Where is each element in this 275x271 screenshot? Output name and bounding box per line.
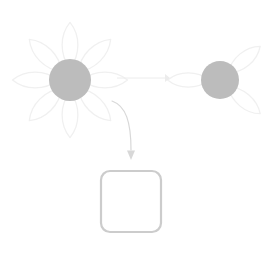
drag-arrow xyxy=(112,101,135,160)
source-flower[interactable] xyxy=(12,22,127,137)
drag-arrow-path xyxy=(112,101,131,150)
diagram-svg xyxy=(0,0,275,271)
result-flower-center[interactable] xyxy=(201,61,239,99)
result-flower[interactable] xyxy=(168,41,265,119)
drag-arrow-head-icon xyxy=(127,151,135,161)
diagram-canvas xyxy=(0,0,275,271)
source-flower-center[interactable] xyxy=(49,59,91,101)
empty-drop-box[interactable] xyxy=(101,171,161,232)
